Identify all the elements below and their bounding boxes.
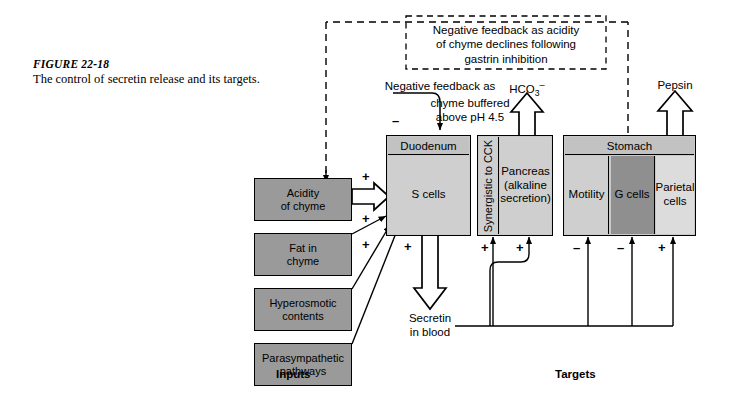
bicarbonate-charge: – <box>540 80 545 90</box>
stomach-pane-motility[interactable]: Motility <box>565 156 609 235</box>
duodenum-feedback-label: Negative feedback as <box>375 79 505 93</box>
acidity-to-scells-arrow <box>352 183 389 210</box>
duodenum-feedback-sign: – <box>392 114 399 127</box>
pancreas-sign-left: + <box>481 241 489 254</box>
input-sign-parasympathetic: + <box>404 240 412 253</box>
pepsin-label: Pepsin <box>645 78 705 92</box>
figure-caption-text: The control of secretin release and its … <box>33 72 283 88</box>
pancreas-sign-right: + <box>516 241 524 254</box>
input-box-acidity-of-chyme[interactable]: Acidity of chyme <box>254 178 352 221</box>
input-label-fat-in-chyme: Fat in chyme <box>287 242 319 268</box>
input-label-hyperosmotic-contents: Hyperosmotic contents <box>269 297 336 323</box>
bicarbonate-label: HCO3– <box>497 80 557 99</box>
pepsin-output-arrow <box>658 91 692 136</box>
pancreas-synergistic-text: Synergistic to CCK <box>483 139 495 231</box>
figure-number: FIGURE 22-18 <box>33 58 283 70</box>
section-label-targets: Targets <box>555 368 596 380</box>
duodenum-feedback-condition: chyme buffered above pH 4.5 <box>414 96 526 125</box>
figure-caption: FIGURE 22-18 The control of secretin rel… <box>33 58 283 88</box>
input-label-acidity-of-chyme: Acidity of chyme <box>281 187 326 213</box>
input-sign-hyperosmotic: + <box>362 238 370 251</box>
stomach-pane-parietal-cells[interactable]: Parietal cells <box>656 156 694 235</box>
stomach-header: Stomach <box>565 137 694 155</box>
duodenum-s-cells-pane[interactable]: S cells <box>388 156 469 235</box>
diagram-canvas: FIGURE 22-18 The control of secretin rel… <box>0 0 733 394</box>
negative-feedback-note: Negative feedback as acidity of chyme de… <box>406 23 606 66</box>
pancreas-body-pane[interactable]: Pancreas (alkaline secretion) <box>500 137 551 234</box>
input-box-fat-in-chyme[interactable]: Fat in chyme <box>254 233 352 276</box>
pancreas-synergistic-label: Synergistic to CCK <box>479 137 499 234</box>
stomach-sign-parietal-cells: + <box>658 241 666 254</box>
section-label-inputs: Inputs <box>276 368 311 380</box>
input-sign-acidity: + <box>362 170 370 183</box>
input-box-hyperosmotic-contents[interactable]: Hyperosmotic contents <box>254 288 352 331</box>
secretin-output-arrow <box>414 227 446 309</box>
duodenum-header: Duodenum <box>388 137 469 155</box>
stomach-sign-g-cells: – <box>617 241 624 254</box>
secretin-output-label: Secretin in blood <box>398 311 462 340</box>
stomach-pane-g-cells[interactable]: G cells <box>611 156 655 235</box>
bicarbonate-text: HCO <box>509 83 535 95</box>
stomach-sign-motility: – <box>573 241 580 254</box>
input-sign-fat: + <box>362 212 370 225</box>
